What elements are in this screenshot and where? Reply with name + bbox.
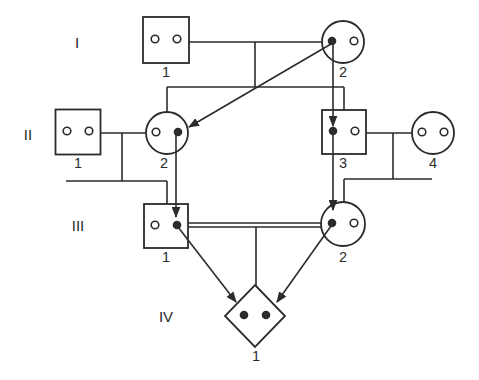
allele-open-dot xyxy=(440,128,448,136)
allele-open-dot xyxy=(173,35,181,43)
allele-open-dot xyxy=(151,221,159,229)
individual-III-2: 2 xyxy=(321,202,365,265)
individual-II-4: 4 xyxy=(412,112,454,171)
allele-open-dot xyxy=(85,127,93,135)
individual-number-label: 1 xyxy=(252,348,260,364)
individual-number-label: 3 xyxy=(339,155,347,171)
allele-open-dot xyxy=(351,127,359,135)
allele-open-dot xyxy=(350,37,358,45)
transmission-arrow-III2-to-IV1 xyxy=(277,226,331,302)
generation-label-I: I xyxy=(75,34,79,51)
allele-filled-dot xyxy=(328,37,337,46)
generation-label-III: III xyxy=(72,217,85,234)
generation-label-IV: IV xyxy=(159,308,173,325)
male-square-symbol xyxy=(143,17,189,63)
individual-number-label: 1 xyxy=(74,155,82,171)
individual-number-label: 1 xyxy=(162,249,170,265)
transmission-arrow-I2-to-II2 xyxy=(189,44,331,127)
allele-open-dot xyxy=(63,127,71,135)
individual-II-3: 3 xyxy=(322,110,366,171)
allele-open-dot xyxy=(350,219,358,227)
generation-labels: IIIIIIIV xyxy=(24,34,173,325)
allele-open-dot xyxy=(152,128,160,136)
allele-filled-dot xyxy=(173,221,182,230)
individual-number-label: 1 xyxy=(162,64,170,80)
allele-filled-dot xyxy=(329,127,338,136)
transmission-arrow-III1-to-IV1 xyxy=(178,227,236,302)
individual-I-1: 1 xyxy=(143,17,189,80)
allele-filled-dot xyxy=(240,311,249,320)
allele-filled-dot xyxy=(174,128,183,137)
individual-II-2: 2 xyxy=(146,112,188,171)
individual-II-1: 1 xyxy=(56,110,101,172)
individual-IV-1: 1 xyxy=(225,285,285,364)
male-square-symbol xyxy=(56,110,101,155)
individual-number-label: 2 xyxy=(160,155,168,171)
individual-number-label: 2 xyxy=(339,249,347,265)
individual-number-label: 4 xyxy=(429,155,437,171)
allele-filled-dot xyxy=(262,311,271,320)
allele-open-dot xyxy=(418,128,426,136)
individual-III-1: 1 xyxy=(144,204,188,265)
individual-I-2: 2 xyxy=(322,21,364,80)
pedigree-figure: 121234121IIIIIIIV xyxy=(0,0,479,380)
pedigree-diagram: 121234121IIIIIIIV xyxy=(0,0,479,380)
relationship-lines xyxy=(66,42,432,286)
unknown-sex-diamond-symbol xyxy=(225,285,285,347)
individual-number-label: 2 xyxy=(339,64,347,80)
generation-label-II: II xyxy=(24,126,32,143)
allele-open-dot xyxy=(151,35,159,43)
allele-filled-dot xyxy=(328,219,337,228)
